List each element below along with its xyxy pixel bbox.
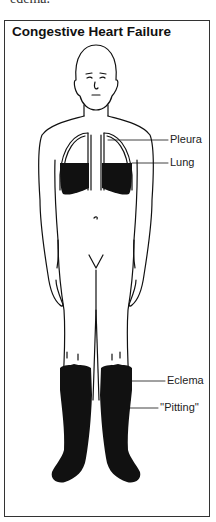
label-pleura: Pleura bbox=[170, 133, 202, 145]
leg-edema bbox=[52, 364, 141, 483]
head-outline bbox=[74, 45, 118, 110]
human-body-illustration bbox=[0, 0, 216, 522]
label-pitting: ''Pitting'' bbox=[160, 401, 199, 413]
label-eclema: Eclema bbox=[167, 374, 204, 386]
label-lung: Lung bbox=[170, 156, 194, 168]
lung-fluid bbox=[60, 163, 132, 195]
